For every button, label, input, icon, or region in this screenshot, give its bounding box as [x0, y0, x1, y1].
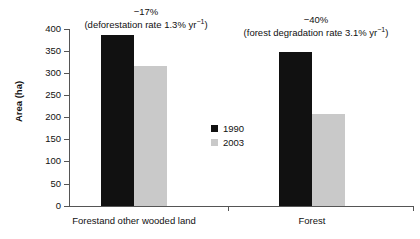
legend-swatch-1990-icon: [211, 125, 218, 132]
annotation-rate-exponent-2: −1: [377, 25, 385, 32]
annotation-rate-prefix-1: (deforestation rate 1.3% yr: [84, 19, 196, 30]
y-tick-100: [64, 161, 69, 162]
y-axis-line: [69, 29, 70, 207]
legend-swatch-2003-icon: [211, 139, 218, 146]
annotation-rate-prefix-2: (forest degradation rate 3.1% yr: [244, 27, 378, 38]
y-tick-label-250: 250: [21, 89, 61, 100]
y-tick-200: [64, 117, 69, 118]
legend-item-2003: 2003: [211, 135, 244, 149]
y-tick-300: [64, 73, 69, 74]
y-tick-label-300: 300: [21, 67, 61, 78]
y-tick-label-200: 200: [21, 111, 61, 122]
y-tick-250: [64, 95, 69, 96]
y-tick-400: [64, 29, 69, 30]
annotation-forest-and-other-wooded-land: −17% (deforestation rate 1.3% yr−1): [56, 6, 236, 31]
legend-label-2003: 2003: [223, 137, 244, 148]
annotation-rate-2: (forest degradation rate 3.1% yr−1): [218, 27, 414, 40]
annotation-rate-1: (deforestation rate 1.3% yr−1): [56, 19, 236, 32]
chart-legend: 1990 2003: [211, 121, 244, 149]
x-tick-right-end: [413, 207, 414, 211]
y-tick-label-150: 150: [21, 133, 61, 144]
y-tick-350: [64, 51, 69, 52]
y-tick-50: [64, 184, 69, 185]
bar-1990-forest-and-other-wooded-land: [101, 35, 134, 206]
x-tick-group-divider: [228, 207, 229, 211]
y-tick-label-50: 50: [21, 178, 61, 189]
y-tick-label-0: 0: [21, 200, 61, 211]
annotation-rate-suffix-2: ): [385, 27, 388, 38]
bar-1990-forest: [279, 52, 312, 206]
legend-label-1990: 1990: [223, 123, 244, 134]
x-tick-label-forest-and-other-wooded-land: Forestand other wooded land: [59, 215, 209, 226]
legend-item-1990: 1990: [211, 121, 244, 135]
bar-2003-forest: [312, 114, 345, 206]
annotation-forest: −40% (forest degradation rate 3.1% yr−1): [218, 14, 414, 39]
annotation-percent-change-1: −17%: [56, 6, 236, 19]
x-tick-label-forest: Forest: [262, 215, 362, 226]
y-tick-label-400: 400: [21, 23, 61, 34]
bar-chart-figure: −17% (deforestation rate 1.3% yr−1) −40%…: [0, 0, 420, 239]
annotation-rate-suffix-1: ): [204, 19, 207, 30]
y-tick-150: [64, 139, 69, 140]
y-tick-label-100: 100: [21, 155, 61, 166]
bar-2003-forest-and-other-wooded-land: [134, 66, 167, 206]
y-tick-label-350: 350: [21, 45, 61, 56]
x-axis-line: [69, 206, 414, 207]
